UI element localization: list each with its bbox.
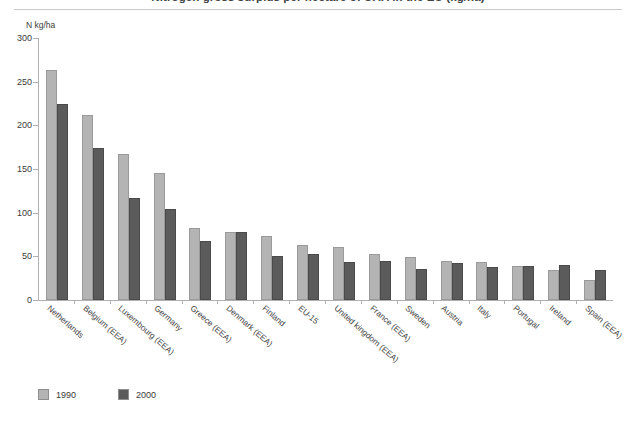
bar-2000-italy xyxy=(487,267,498,300)
y-tick-150 xyxy=(33,169,38,170)
bar-group xyxy=(75,38,111,300)
bar-group xyxy=(434,38,470,300)
legend-entry-2000[interactable]: 2000 xyxy=(118,389,156,400)
bar-group xyxy=(39,38,75,300)
bar-2000-denmark-eea xyxy=(236,232,247,300)
bar-2000-eu-15 xyxy=(308,254,319,300)
y-tick-label-0: 0 xyxy=(27,295,32,305)
bar-2000-germany xyxy=(165,209,176,300)
bar-2000-ireland xyxy=(559,265,570,300)
y-tick-label-300: 300 xyxy=(17,33,32,43)
bar-2000-united-kingdom-eea xyxy=(344,262,355,300)
bar-1990-netherlands xyxy=(46,70,57,300)
y-axis-tick-labels: 050100150200250300 xyxy=(0,38,34,301)
bar-2000-belgium-eea xyxy=(93,148,104,300)
bar-1990-germany xyxy=(154,173,165,301)
bar-2000-france-eea xyxy=(380,261,391,300)
bar-group xyxy=(147,38,183,300)
plot-area xyxy=(38,38,613,300)
y-tick-0 xyxy=(33,300,38,301)
bar-2000-greece-eea xyxy=(200,241,211,300)
bar-group xyxy=(362,38,398,300)
y-tick-label-200: 200 xyxy=(17,120,32,130)
bar-1990-united-kingdom-eea xyxy=(333,247,344,300)
bar-1990-finland xyxy=(261,236,272,300)
x-label-united-kingdom-eea: United kingdom (EEA) xyxy=(332,303,401,364)
bar-group xyxy=(398,38,434,300)
bar-group xyxy=(470,38,506,300)
y-tick-300 xyxy=(33,38,38,39)
chart-legend: 19902000 xyxy=(38,389,198,400)
y-tick-250 xyxy=(33,82,38,83)
y-tick-label-50: 50 xyxy=(22,251,32,261)
x-label-italy: Italy xyxy=(476,303,494,321)
x-label-spain-eea: Spain (EEA) xyxy=(583,303,624,341)
bar-group xyxy=(577,38,613,300)
bar-1990-sweden xyxy=(405,257,416,300)
bar-1990-france-eea xyxy=(369,254,380,300)
y-tick-200 xyxy=(33,125,38,126)
bar-1990-spain-eea xyxy=(584,280,595,300)
bar-2000-sweden xyxy=(416,269,427,300)
bar-groups xyxy=(39,38,613,300)
bar-2000-finland xyxy=(272,256,283,300)
x-label-germany: Germany xyxy=(153,303,185,333)
bar-2000-netherlands xyxy=(57,104,68,301)
x-label-sweden: Sweden xyxy=(404,303,433,330)
x-label-finland: Finland xyxy=(260,303,287,328)
bar-1990-portugal xyxy=(512,266,523,300)
bar-group xyxy=(290,38,326,300)
bar-group xyxy=(541,38,577,300)
bar-1990-greece-eea xyxy=(189,228,200,300)
legend-swatch-2000 xyxy=(118,389,129,400)
y-tick-label-250: 250 xyxy=(17,77,32,87)
legend-label-2000: 2000 xyxy=(136,390,156,400)
y-tick-label-100: 100 xyxy=(17,208,32,218)
chart-title: Nitrogen gross surplus per hectare of UA… xyxy=(0,0,636,3)
bar-2000-spain-eea xyxy=(595,270,606,300)
bar-group xyxy=(218,38,254,300)
y-tick-label-150: 150 xyxy=(17,164,32,174)
y-tick-50 xyxy=(33,256,38,257)
bar-2000-luxembourg-eea xyxy=(129,198,140,300)
bar-group xyxy=(326,38,362,300)
x-label-eu-15: EU-15 xyxy=(296,303,320,326)
bar-1990-eu-15 xyxy=(297,245,308,300)
bar-1990-luxembourg-eea xyxy=(118,154,129,300)
bar-1990-denmark-eea xyxy=(225,232,236,300)
x-label-netherlands: Netherlands xyxy=(45,303,85,340)
y-axis-unit-label: N kg/ha xyxy=(26,20,55,30)
chart-title-strip: Nitrogen gross surplus per hectare of UA… xyxy=(0,0,636,9)
bar-1990-italy xyxy=(476,262,487,300)
legend-entry-1990[interactable]: 1990 xyxy=(38,389,76,400)
bar-1990-ireland xyxy=(548,270,559,300)
bar-group xyxy=(254,38,290,300)
y-tick-100 xyxy=(33,213,38,214)
legend-swatch-1990 xyxy=(38,389,49,400)
bar-2000-austria xyxy=(452,263,463,300)
legend-label-1990: 1990 xyxy=(56,390,76,400)
bar-1990-belgium-eea xyxy=(82,115,93,300)
x-label-portugal: Portugal xyxy=(511,303,541,331)
bar-group xyxy=(505,38,541,300)
x-axis-category-labels: NetherlandsBelgium (EEA)Luxembourg (EEA)… xyxy=(38,303,613,381)
bar-2000-portugal xyxy=(523,266,534,300)
x-label-ireland: Ireland xyxy=(547,303,573,327)
x-label-austria: Austria xyxy=(440,303,466,327)
bar-group xyxy=(111,38,147,300)
bar-1990-austria xyxy=(441,261,452,300)
title-divider xyxy=(14,9,622,10)
bar-group xyxy=(183,38,219,300)
